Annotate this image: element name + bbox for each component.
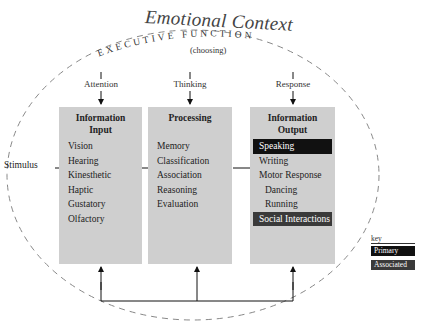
key-divider [371,243,415,244]
list-item: Dancing [250,183,335,198]
list-item: Association [148,168,232,183]
processing-box: Processing Memory Classification Associa… [148,107,232,264]
key-primary: Primary [371,246,415,256]
list-item-associated: Social Interactions [253,212,332,227]
list-item: Reasoning [148,183,232,198]
stage-response: Response [253,79,333,89]
list-item: Writing [250,154,335,169]
list-item: Motor Response [250,168,335,183]
box-title: Information Output [250,112,335,136]
list-item: Memory [148,139,232,154]
list-item: Kinesthetic [59,168,142,183]
stimulus-label: Stimulus [4,160,38,170]
list-item-primary: Speaking [253,139,332,154]
list-item: Classification [148,154,232,169]
executive-function-label: EXECUTIVE FUNCTION [96,28,255,58]
box-title: Processing [148,112,232,124]
list-item: Olfactory [59,212,142,227]
stage-attention: Attention [61,79,141,89]
executive-function-subtitle: (choosing) [190,45,226,55]
key-label: key [371,234,382,243]
list-item: Running [250,197,335,212]
list-item: Vision [59,139,142,154]
list-item: Evaluation [148,197,232,212]
list-item: Gustatory [59,197,142,212]
list-item: Hearing [59,154,142,169]
information-output-box: Information Output Speaking Writing Moto… [250,107,335,264]
key-associated: Associated [371,260,415,270]
stage-thinking: Thinking [150,79,230,89]
list-item: Haptic [59,183,142,198]
box-title: Information Input [59,112,142,136]
information-input-box: Information Input Vision Hearing Kinesth… [59,107,142,264]
